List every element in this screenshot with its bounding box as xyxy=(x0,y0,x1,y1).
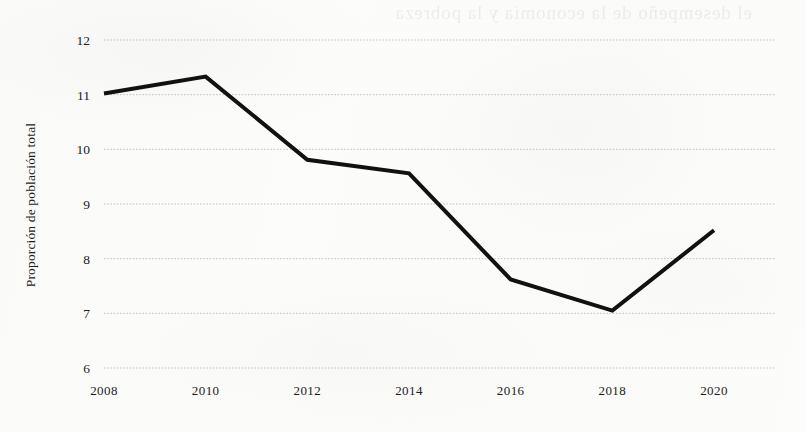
x-axis-tick-labels: 2008201020122014201620182020 xyxy=(90,383,728,398)
y-tick-label: 11 xyxy=(77,88,90,103)
x-tick-label: 2018 xyxy=(599,383,627,398)
y-tick-label: 10 xyxy=(77,142,91,157)
series-proporcion-de-poblacion-total xyxy=(104,77,714,311)
y-tick-label: 7 xyxy=(83,306,90,321)
x-tick-label: 2014 xyxy=(395,383,423,398)
x-tick-label: 2012 xyxy=(294,383,322,398)
y-tick-label: 9 xyxy=(83,197,90,212)
plot-area: 1211109876 2008201020122014201620182020 xyxy=(0,0,806,432)
data-series-line xyxy=(104,77,714,311)
y-tick-label: 8 xyxy=(83,252,90,267)
x-tick-label: 2010 xyxy=(192,383,220,398)
y-tick-label: 6 xyxy=(83,361,90,376)
x-tick-label: 2016 xyxy=(497,383,525,398)
x-tick-label: 2008 xyxy=(90,383,118,398)
x-tick-label: 2020 xyxy=(700,383,728,398)
y-tick-label: 12 xyxy=(77,33,91,48)
line-chart: Proporción de población total 1211109876… xyxy=(0,0,806,432)
y-axis-tick-labels: 1211109876 xyxy=(77,33,91,376)
